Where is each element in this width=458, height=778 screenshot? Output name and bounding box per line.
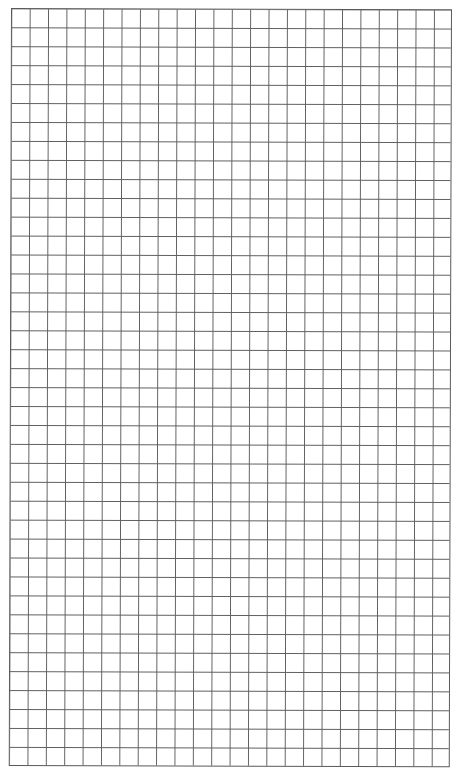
graph-paper-grid: [9, 8, 452, 767]
